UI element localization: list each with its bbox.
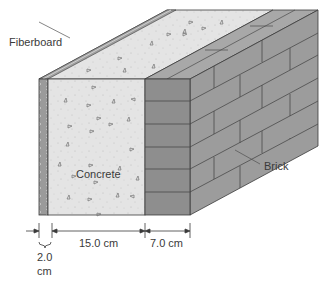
concrete-label: Concrete: [76, 168, 121, 180]
front-face: [39, 79, 190, 215]
fiberboard-label: Fiberboard: [9, 36, 62, 48]
concrete-layer: [48, 79, 145, 215]
composite-wall-diagram: Fiberboard Concrete Brick 15.0 cm 7.0 cm…: [0, 0, 329, 283]
fiberboard-layer: [39, 79, 48, 215]
brick-label: Brick: [264, 160, 289, 172]
fiberboard-dimension-unit: cm: [37, 265, 52, 277]
concrete-dimension: 15.0 cm: [79, 237, 118, 249]
fiberboard-dimension-value: 2.0: [37, 251, 52, 263]
brick-dimension: 7.0 cm: [150, 237, 183, 249]
